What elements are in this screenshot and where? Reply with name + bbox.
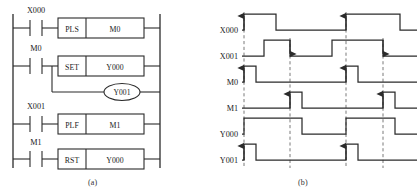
- ladder-rung-3: X001 PLF M1: [13, 102, 160, 134]
- waveform-m0: M0: [227, 66, 417, 87]
- figure-root: X000 PLS M0 M0: [0, 0, 419, 195]
- signal-label-x000: X000: [220, 26, 238, 35]
- ladder-rung-4: M1 RST Y000: [13, 138, 160, 169]
- instruction-operand-m1: M1: [110, 121, 121, 130]
- instruction-block-plf-m1: PLF M1: [58, 114, 144, 134]
- waveform-x000-path: [242, 14, 417, 30]
- contact-m1-normally-open: [30, 151, 42, 167]
- signal-label-x001: X001: [220, 52, 238, 61]
- timing-diagram-svg: X000 X001 M0 M1: [210, 0, 419, 175]
- caption-b: (b): [298, 178, 308, 187]
- instruction-block-set-y000: SET Y000: [58, 56, 144, 76]
- instruction-block-pls-m0: PLS M0: [58, 18, 144, 38]
- instruction-block-rst-y000: RST Y000: [58, 149, 144, 169]
- waveform-y001: Y001: [220, 144, 417, 165]
- signal-label-y000: Y000: [220, 130, 238, 139]
- instruction-name-plf: PLF: [65, 121, 79, 130]
- signal-label-m1: M1: [227, 104, 238, 113]
- contact-x001-normally-open: [30, 116, 42, 132]
- waveform-m1-path: [242, 92, 417, 108]
- instruction-operand-m0: M0: [110, 25, 121, 34]
- instruction-name-pls: PLS: [65, 25, 78, 34]
- signal-label-m0: M0: [227, 78, 238, 87]
- contact-label-m0: M0: [30, 44, 41, 53]
- ladder-rung-2: M0 SET Y000: [13, 44, 160, 101]
- ladder-diagram-svg: X000 PLS M0 M0: [0, 0, 210, 175]
- instruction-operand-y000: Y000: [106, 156, 123, 165]
- waveform-y001-path: [242, 144, 417, 160]
- waveform-x000: X000: [220, 14, 417, 35]
- output-coil-y001: Y001: [104, 84, 140, 101]
- timing-reference-markers: [244, 12, 383, 168]
- instruction-name-set: SET: [65, 63, 79, 72]
- waveform-y000: Y000: [220, 118, 417, 139]
- waveform-x001-path: [242, 40, 417, 56]
- waveform-x001: X001: [220, 40, 417, 61]
- contact-label-m1: M1: [30, 138, 41, 147]
- instruction-operand-y000: Y000: [106, 63, 123, 72]
- caption-a: (a): [88, 178, 97, 187]
- ladder-diagram-panel: X000 PLS M0 M0: [0, 0, 210, 195]
- contact-m0-normally-open: [30, 58, 42, 74]
- coil-label-y001: Y001: [114, 88, 131, 97]
- instruction-name-rst: RST: [65, 156, 80, 165]
- contact-x000-normally-open: [30, 20, 42, 36]
- waveform-m1: M1: [227, 92, 417, 113]
- waveform-m0-path: [242, 66, 417, 82]
- contact-label-x001: X001: [27, 102, 45, 111]
- waveform-y000-path: [242, 118, 417, 134]
- timing-diagram-panel: X000 X001 M0 M1: [210, 0, 419, 195]
- ladder-rung-1: X000 PLS M0: [13, 6, 160, 38]
- signal-label-y001: Y001: [220, 156, 238, 165]
- contact-label-x000: X000: [27, 6, 45, 15]
